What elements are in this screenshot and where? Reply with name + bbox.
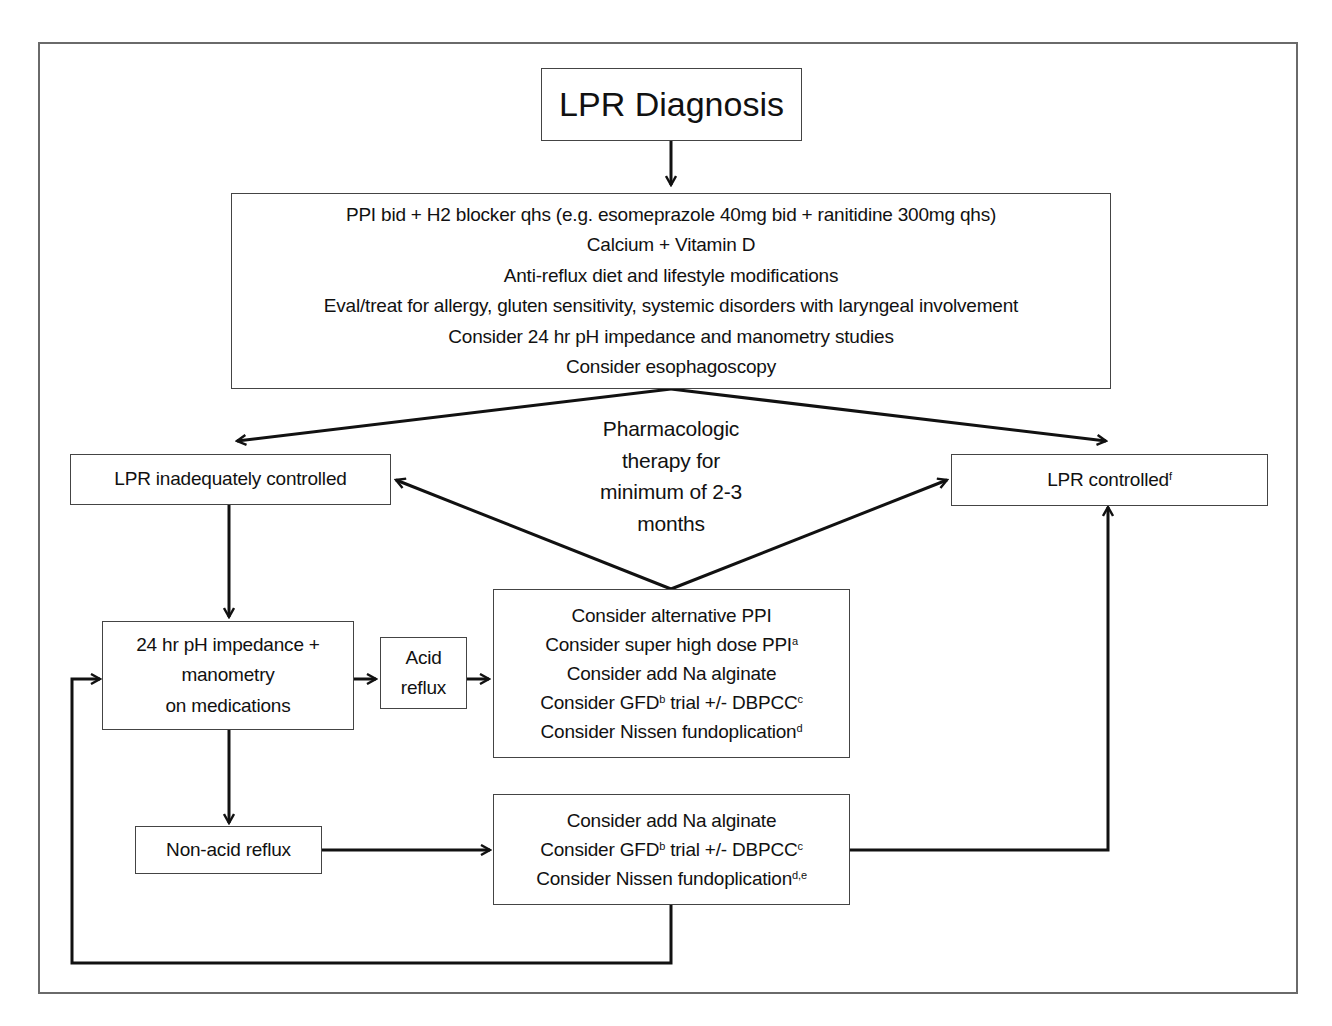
note-line: minimum of 2-3 [566, 476, 776, 508]
acid-option: Consider alternative PPI [571, 601, 771, 630]
impedance-line: on medications [166, 691, 291, 722]
footnote-c: c [798, 693, 803, 705]
lpr-inadequately-controlled-box: LPR inadequately controlled [70, 454, 391, 505]
treatment-line: Calcium + Vitamin D [587, 230, 756, 261]
acid-option: Consider GFDb trial +/- DBPCCc [540, 688, 803, 717]
acid-reflux-box: Acid reflux [380, 637, 467, 709]
option-text: Consider Nissen fundoplication [541, 721, 797, 742]
option-text: Consider add Na alginate [567, 663, 777, 684]
non-acid-reflux-label: Non-acid reflux [166, 835, 291, 866]
treatment-line: PPI bid + H2 blocker qhs (e.g. esomepraz… [346, 200, 996, 231]
non-acid-option: Consider Nissen fundoplicationd,e [536, 864, 807, 893]
non-acid-options-box: Consider add Na alginate Consider GFDb t… [493, 794, 850, 905]
therapy-duration-note: Pharmacologic therapy for minimum of 2-3… [566, 413, 776, 539]
acid-reflux-line: Acid [405, 643, 441, 674]
lpr-diagnosis-box: LPR Diagnosis [541, 68, 802, 141]
footnote-f: f [1169, 470, 1172, 482]
treatment-line: Anti-reflux diet and lifestyle modificat… [504, 261, 838, 292]
note-line: Pharmacologic [566, 413, 776, 445]
note-line: therapy for [566, 445, 776, 477]
footnote-a: a [792, 635, 798, 647]
non-acid-option: Consider GFDb trial +/- DBPCCc [540, 835, 803, 864]
option-text: Consider GFD [540, 692, 659, 713]
acid-option: Consider add Na alginate [567, 659, 777, 688]
footnote-c: c [798, 840, 803, 852]
initial-treatment-box: PPI bid + H2 blocker qhs (e.g. esomepraz… [231, 193, 1111, 389]
impedance-line: 24 hr pH impedance + [136, 630, 319, 661]
diagnosis-title: LPR Diagnosis [559, 89, 784, 120]
note-line: months [566, 508, 776, 540]
non-acid-option: Consider add Na alginate [567, 806, 777, 835]
option-text-tail: trial +/- DBPCC [665, 839, 797, 860]
option-text-tail: trial +/- DBPCC [665, 692, 797, 713]
controlled-label: LPR controlled [1047, 469, 1169, 490]
non-acid-reflux-box: Non-acid reflux [135, 826, 322, 874]
impedance-line: manometry [181, 660, 274, 691]
option-text: Consider add Na alginate [567, 810, 777, 831]
footnote-de: d,e [792, 869, 807, 881]
impedance-test-box: 24 hr pH impedance + manometry on medica… [102, 621, 354, 730]
footnote-d: d [797, 722, 803, 734]
option-text: Consider super high dose PPI [545, 634, 792, 655]
acid-option: Consider Nissen fundoplicationd [541, 717, 803, 746]
inadequately-controlled-label: LPR inadequately controlled [114, 464, 346, 495]
treatment-line: Consider 24 hr pH impedance and manometr… [448, 322, 893, 353]
option-text: Consider Nissen fundoplication [536, 868, 792, 889]
treatment-line: Eval/treat for allergy, gluten sensitivi… [324, 291, 1018, 322]
acid-options-box: Consider alternative PPI Consider super … [493, 589, 850, 758]
controlled-label-wrap: LPR controlledf [1047, 465, 1172, 496]
option-text: Consider alternative PPI [571, 605, 771, 626]
option-text: Consider GFD [540, 839, 659, 860]
acid-option: Consider super high dose PPIa [545, 630, 798, 659]
acid-reflux-line: reflux [401, 673, 446, 704]
treatment-line: Consider esophagoscopy [566, 352, 776, 383]
lpr-controlled-box: LPR controlledf [951, 454, 1268, 506]
